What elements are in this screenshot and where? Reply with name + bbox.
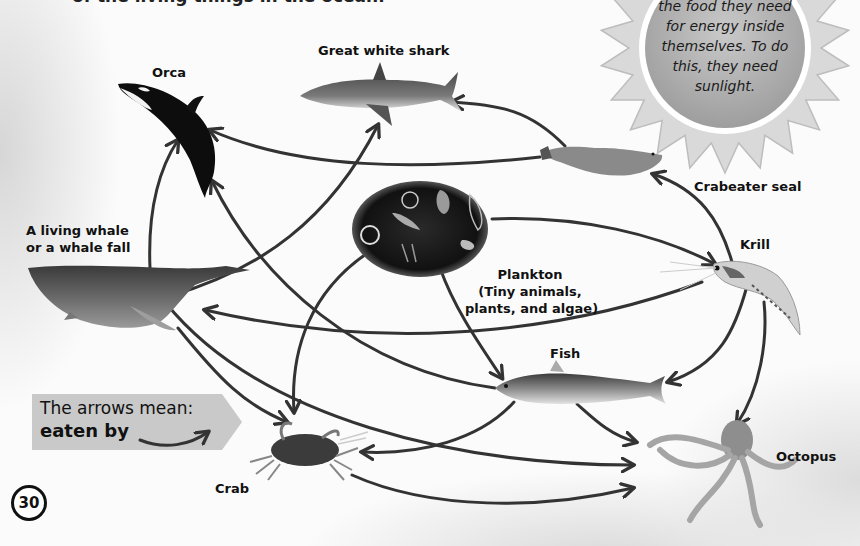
- arrow-whale-to-orca: [150, 140, 178, 268]
- label-plankton: Plankton (Tiny animals, plants, and alga…: [465, 266, 595, 317]
- arrow-fish-to-octopus: [577, 404, 636, 442]
- label-whale-line2: or a whale fall: [26, 239, 130, 256]
- arrow-krill-to-octopus: [737, 302, 765, 424]
- sun-caption-line: themselves. To do: [655, 36, 795, 56]
- arrow-fish-to-crab: [362, 402, 514, 452]
- label-shark: Great white shark: [318, 42, 450, 59]
- sun-caption-line: the food they need: [655, 0, 795, 16]
- krill-image[interactable]: [660, 261, 800, 335]
- sun-caption-line: sunlight.: [655, 76, 795, 96]
- label-plankton-line1: Plankton: [465, 266, 595, 283]
- arrow-seal-to-orca: [210, 130, 540, 165]
- arrow-plankton-to-krill: [492, 218, 715, 264]
- label-krill: Krill: [740, 236, 770, 253]
- whale-image[interactable]: [28, 266, 250, 331]
- legend-meaning: eaten by: [40, 420, 129, 441]
- label-octopus: Octopus: [776, 448, 836, 465]
- arrow-seal-to-shark: [452, 102, 565, 146]
- label-whale: A living whale or a whale fall: [26, 222, 130, 256]
- orca-image[interactable]: [118, 83, 215, 198]
- plankton-image[interactable]: [352, 181, 488, 277]
- page-number: 30: [11, 485, 47, 521]
- label-whale-line1: A living whale: [26, 222, 130, 239]
- legend-title: The arrows mean:: [40, 398, 193, 418]
- label-seal: Crabeater seal: [694, 178, 801, 195]
- shark-image[interactable]: [300, 62, 462, 126]
- label-plankton-line2: (Tiny animals,: [465, 283, 595, 300]
- arrow-krill-to-whale: [205, 282, 702, 333]
- label-fish: Fish: [550, 345, 580, 362]
- arrows: [150, 102, 765, 503]
- seal-image[interactable]: [540, 146, 662, 176]
- crab-image[interactable]: [250, 423, 368, 480]
- sun-caption: the food they need for energy inside the…: [655, 0, 795, 96]
- fish-image[interactable]: [495, 360, 666, 404]
- octopus-image[interactable]: [650, 420, 795, 525]
- label-orca: Orca: [152, 64, 186, 81]
- arrow-krill-to-fish: [668, 286, 747, 382]
- label-crab: Crab: [215, 480, 249, 497]
- label-plankton-line3: plants, and algae): [465, 300, 595, 317]
- sun-caption-line: this, they need: [655, 56, 795, 76]
- arrow-crab-to-octopus: [352, 475, 633, 503]
- sun-caption-line: for energy inside: [655, 16, 795, 36]
